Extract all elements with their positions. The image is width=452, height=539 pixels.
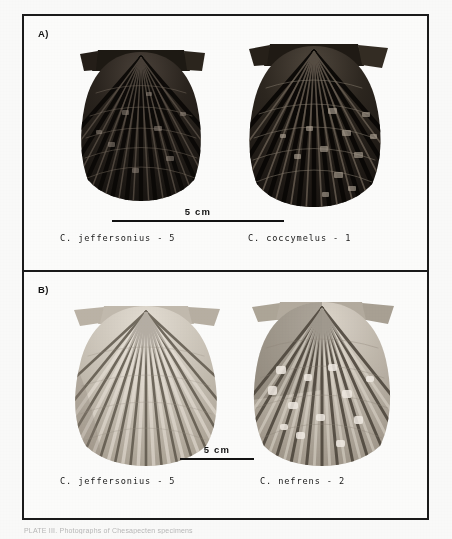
- specimen-label-a-left: C. jeffersonius - 5: [60, 233, 175, 243]
- specimen-image-a-left: [66, 38, 216, 208]
- specimen-label-a-right: C. coccymelus - 1: [248, 233, 351, 243]
- plate-frame: A): [22, 14, 429, 520]
- panel-a: A): [24, 16, 427, 272]
- specimen-image-a-right: [236, 34, 396, 212]
- shell-dark-coccymelus: [236, 34, 396, 212]
- scale-bar-a-rule: [112, 220, 284, 223]
- specimen-image-b-right: [242, 290, 402, 470]
- panel-b: B): [24, 272, 427, 519]
- shell-light-nefrens: [242, 290, 402, 470]
- scale-bar-a: 5 cm: [112, 202, 284, 222]
- scale-bar-b: 5 cm: [180, 440, 254, 460]
- scale-bar-b-label: 5 cm: [180, 444, 254, 455]
- shell-dark-jeffersonius: [66, 38, 216, 208]
- scale-bar-a-label: 5 cm: [112, 206, 284, 217]
- scale-bar-b-rule: [180, 458, 254, 461]
- specimen-label-b-left: C. jeffersonius - 5: [60, 476, 175, 486]
- panel-b-label: B): [38, 284, 49, 295]
- specimen-label-b-right: C. nefrens - 2: [260, 476, 345, 486]
- panel-a-label: A): [38, 28, 49, 39]
- plate-caption: PLATE III. Photographs of Chesapecten sp…: [24, 527, 444, 534]
